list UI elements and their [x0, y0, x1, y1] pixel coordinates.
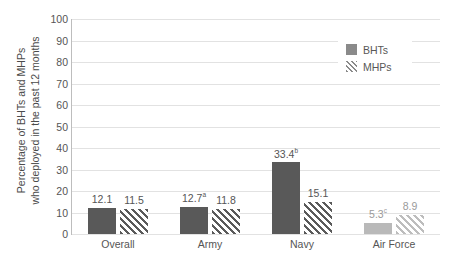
y-axis-tick-label: 80 [42, 56, 68, 68]
y-axis-tick-label: 10 [42, 207, 68, 219]
bar-mhps-overall[interactable] [120, 209, 148, 234]
x-axis-tick-labels: OverallArmyNavyAir Force [72, 238, 440, 258]
y-axis-tick-label: 90 [42, 35, 68, 47]
gridline [72, 234, 440, 235]
y-axis-tick-label: 0 [42, 228, 68, 240]
x-axis-tick-label: Army [165, 238, 255, 250]
bar-value-label: 15.1 [293, 187, 343, 199]
chart-legend: BHTs MHPs [338, 34, 412, 81]
bar-chart: Percentage of BHTs and MHPs who deployed… [0, 0, 453, 266]
x-axis-tick-label: Overall [73, 238, 163, 250]
bar-mhps-air-force[interactable] [396, 215, 424, 234]
bar-bhts-overall[interactable] [88, 208, 116, 234]
bar-value-label: 33.4b [261, 147, 311, 160]
legend-item: MHPs [346, 58, 412, 75]
y-axis-tick-labels: 0102030405060708090100 [38, 19, 68, 234]
y-axis-tick-label: 70 [42, 78, 68, 90]
y-axis-tick-label: 40 [42, 142, 68, 154]
bar-value-label: 11.8 [201, 194, 251, 206]
y-axis-tick-label: 100 [42, 13, 68, 25]
x-axis-tick-label: Navy [257, 238, 347, 250]
legend-item: BHTs [346, 41, 412, 58]
x-axis-tick-label: Air Force [349, 238, 439, 250]
bar-mhps-army[interactable] [212, 209, 240, 234]
bar-value-label: 8.9 [385, 200, 435, 212]
legend-label-mhps: MHPs [363, 61, 392, 73]
y-axis-tick-label: 30 [42, 164, 68, 176]
bar-group: 33.4b15.1 [256, 19, 348, 234]
bar-bhts-air-force[interactable] [364, 223, 392, 234]
bar-value-label: 11.5 [109, 194, 159, 206]
bar-group: 12.7a11.8 [164, 19, 256, 234]
bar-mhps-navy[interactable] [304, 202, 332, 234]
y-axis-tick-label: 50 [42, 121, 68, 133]
y-axis-tick-label: 60 [42, 99, 68, 111]
y-axis-title-line-1: Percentage of BHTs and MHPs [15, 36, 29, 204]
bar-group: 12.111.5 [72, 19, 164, 234]
legend-swatch-mhps-icon [346, 61, 357, 72]
bar-bhts-army[interactable] [180, 207, 208, 234]
y-axis-tick-label: 20 [42, 185, 68, 197]
legend-label-bhts: BHTs [363, 44, 388, 56]
legend-swatch-bhts-icon [346, 44, 357, 55]
